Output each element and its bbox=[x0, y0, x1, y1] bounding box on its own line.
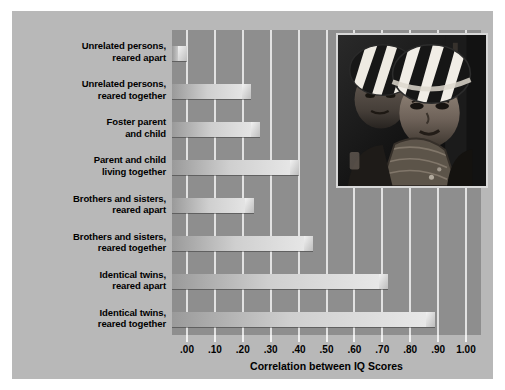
bar bbox=[172, 198, 254, 213]
photo-graphic bbox=[338, 35, 486, 186]
category-label: Unrelated persons,reared together bbox=[26, 78, 166, 101]
bar bbox=[172, 122, 260, 137]
chart-panel: Unrelated persons,reared apartUnrelated … bbox=[12, 11, 493, 379]
x-axis-tick bbox=[381, 335, 383, 342]
category-label-line: Brothers and sisters, bbox=[26, 193, 166, 205]
category-label-line: reared apart bbox=[26, 280, 166, 292]
bar bbox=[172, 84, 251, 99]
bar bbox=[172, 160, 299, 175]
category-label: Parent and childliving together bbox=[26, 154, 166, 177]
x-axis-tick bbox=[242, 335, 244, 342]
bar-tip bbox=[178, 46, 187, 61]
category-label-line: and child bbox=[26, 128, 166, 140]
category-label-line: Identical twins, bbox=[26, 307, 166, 319]
figure-root: Unrelated persons,reared apartUnrelated … bbox=[0, 0, 505, 390]
x-axis-tick-label: .10 bbox=[208, 344, 222, 355]
bar-tip bbox=[251, 122, 260, 137]
category-label: Unrelated persons,reared apart bbox=[26, 40, 166, 63]
bar bbox=[172, 46, 187, 61]
bar-tip bbox=[304, 236, 313, 251]
bar-tip bbox=[245, 198, 254, 213]
x-axis-tick bbox=[298, 335, 300, 342]
category-label-line: Brothers and sisters, bbox=[26, 231, 166, 243]
x-axis-tick bbox=[270, 335, 272, 342]
x-axis-tick-label: .30 bbox=[264, 344, 278, 355]
category-label: Brothers and sisters,reared apart bbox=[26, 193, 166, 216]
x-axis-tick bbox=[437, 335, 439, 342]
bar bbox=[172, 312, 435, 327]
bar-tip bbox=[379, 274, 388, 289]
bar-tip bbox=[290, 160, 299, 175]
bar bbox=[172, 236, 313, 251]
x-axis-tick bbox=[326, 335, 328, 342]
x-axis-tick bbox=[186, 335, 188, 342]
x-axis-tick-label: .80 bbox=[403, 344, 417, 355]
category-label-line: living together bbox=[26, 166, 166, 178]
category-label: Identical twins,reared apart bbox=[26, 269, 166, 292]
category-label-line: reared together bbox=[26, 242, 166, 254]
x-axis-title: Correlation between IQ Scores bbox=[172, 360, 481, 372]
category-label-line: Unrelated persons, bbox=[26, 40, 166, 52]
twin-children-photo bbox=[336, 33, 488, 188]
x-axis-tick-label: .40 bbox=[292, 344, 306, 355]
x-axis-tick-label: 1.00 bbox=[456, 344, 475, 355]
x-axis-tick-label: .20 bbox=[236, 344, 250, 355]
x-axis-tick-label: .00 bbox=[180, 344, 194, 355]
category-label: Brothers and sisters,reared together bbox=[26, 231, 166, 254]
x-axis-tick bbox=[465, 335, 467, 342]
category-label-line: Identical twins, bbox=[26, 269, 166, 281]
bar-tip bbox=[242, 84, 251, 99]
x-axis-tick-label: .90 bbox=[431, 344, 445, 355]
category-label-line: Unrelated persons, bbox=[26, 78, 166, 90]
x-axis-tick-label: .50 bbox=[320, 344, 334, 355]
bar bbox=[172, 274, 388, 289]
x-axis-tick bbox=[353, 335, 355, 342]
category-label: Identical twins,reared together bbox=[26, 307, 166, 330]
bar-tip bbox=[426, 312, 435, 327]
category-label-line: Foster parent bbox=[26, 116, 166, 128]
category-label-line: Parent and child bbox=[26, 154, 166, 166]
x-axis-tick-label: .60 bbox=[347, 344, 361, 355]
category-label-line: reared together bbox=[26, 90, 166, 102]
category-axis-labels: Unrelated persons,reared apartUnrelated … bbox=[26, 30, 166, 335]
x-axis-tick bbox=[409, 335, 411, 342]
category-label: Foster parentand child bbox=[26, 116, 166, 139]
x-axis-tick bbox=[214, 335, 216, 342]
category-label-line: reared apart bbox=[26, 52, 166, 64]
x-axis-tick-label: .70 bbox=[375, 344, 389, 355]
x-axis: Correlation between IQ Scores .00.10.20.… bbox=[172, 335, 481, 379]
category-label-line: reared together bbox=[26, 318, 166, 330]
category-label-line: reared apart bbox=[26, 204, 166, 216]
